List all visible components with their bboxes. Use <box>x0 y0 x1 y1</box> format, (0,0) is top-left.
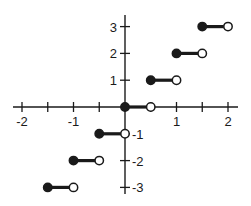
x-tick-label: -1 <box>68 114 80 129</box>
x-tick-label: 2 <box>224 114 231 129</box>
closed-endpoint <box>44 183 52 191</box>
step-function-chart: -2-112321-1-2-3 <box>0 0 251 206</box>
x-tick-label: -2 <box>16 114 28 129</box>
step-segment <box>147 76 181 84</box>
closed-endpoint <box>121 103 129 111</box>
open-endpoint <box>69 183 77 191</box>
x-tick-label: 1 <box>173 114 180 129</box>
open-endpoint <box>121 130 129 138</box>
open-endpoint <box>224 22 232 30</box>
step-segment <box>198 22 232 30</box>
y-tick-label: 1 <box>110 73 117 88</box>
open-endpoint <box>95 156 103 164</box>
step-segment <box>44 183 78 191</box>
open-endpoint <box>198 49 206 57</box>
y-tick-label: -1 <box>132 127 144 142</box>
open-endpoint <box>172 76 180 84</box>
closed-endpoint <box>147 76 155 84</box>
y-tick-label: 3 <box>110 20 117 35</box>
closed-endpoint <box>198 22 206 30</box>
step-segment <box>172 49 206 57</box>
open-endpoint <box>147 103 155 111</box>
step-segment <box>69 156 103 164</box>
y-tick-label: -3 <box>132 180 144 195</box>
closed-endpoint <box>95 130 103 138</box>
y-tick-label: 2 <box>110 46 117 61</box>
closed-endpoint <box>69 156 77 164</box>
step-segment <box>95 130 129 138</box>
closed-endpoint <box>172 49 180 57</box>
y-tick-label: -2 <box>132 154 144 169</box>
step-segment <box>121 103 155 111</box>
